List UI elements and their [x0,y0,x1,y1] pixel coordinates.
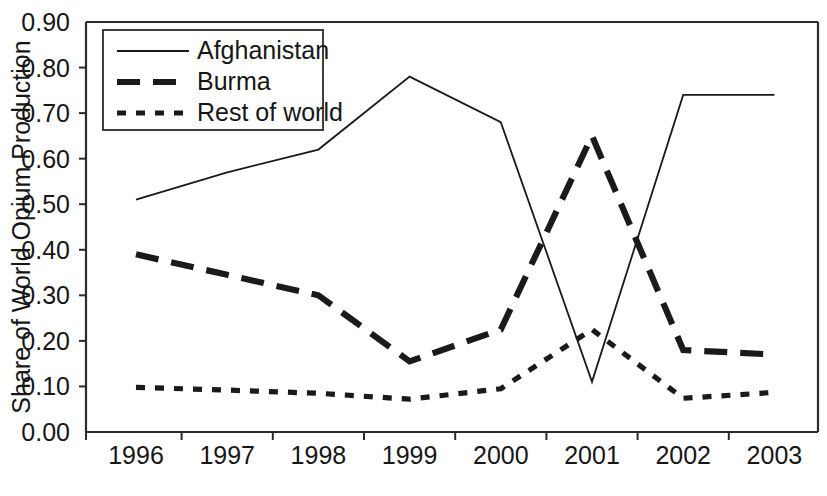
x-tick-label: 1999 [382,441,438,469]
legend-label: Afghanistan [197,36,329,64]
chart-figure: 0.000.100.200.300.400.500.600.700.800.90… [0,0,827,496]
y-tick-label: 0.90 [21,8,70,36]
x-tick-label: 1997 [199,441,255,469]
x-axis-tick-marks [86,432,729,440]
legend-label: Rest of world [197,98,343,126]
x-axis-tick-labels: 19961997199819992000200120022003 [108,441,802,469]
x-tick-label: 2003 [747,441,803,469]
y-axis-title: Share of World Opium Production [7,40,35,413]
series-line-burma [136,136,774,362]
x-tick-label: 2000 [473,441,529,469]
opium-production-line-chart: 0.000.100.200.300.400.500.600.700.800.90… [0,0,827,496]
x-tick-label: 1996 [108,441,164,469]
legend-label: Burma [197,67,271,95]
x-tick-label: 2001 [564,441,620,469]
x-tick-label: 1998 [291,441,347,469]
x-tick-label: 2002 [655,441,711,469]
y-tick-label: 0.00 [21,418,70,446]
